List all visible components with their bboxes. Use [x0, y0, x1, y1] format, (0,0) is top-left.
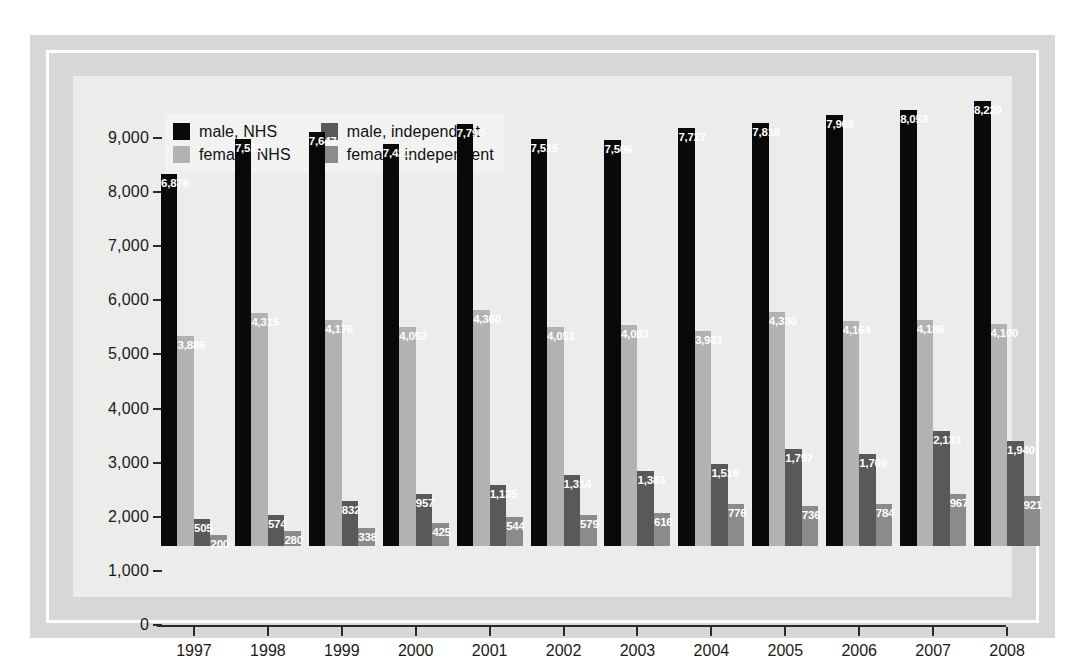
bar-female-independent-1998: 280 — [284, 531, 301, 546]
bar-female-NHS-2005: 4,330 — [769, 312, 786, 546]
x-axis-label-1997: 1997 — [176, 642, 212, 660]
bar-male-independent-2008: 1,940 — [1007, 441, 1024, 546]
bar-male-NHS-2002: 7,515 — [531, 139, 548, 546]
y-axis-tick-label: 1,000 — [73, 562, 149, 580]
bar-male-independent-2006: 1,709 — [859, 454, 876, 546]
bar-male-independent-2001: 1,135 — [490, 485, 507, 546]
legend-label: male, NHS — [199, 123, 277, 141]
x-axis-tick-mark — [267, 627, 269, 636]
bar-value-label: 4,330 — [769, 315, 786, 327]
bar-male-NHS-1998: 7,515 — [235, 139, 252, 546]
bar-female-NHS-2007: 4,186 — [917, 320, 934, 547]
bar-female-independent-1997: 200 — [210, 535, 227, 546]
legend-item-female-NHS: female, NHS — [173, 146, 291, 164]
x-axis-label-1998: 1998 — [250, 642, 286, 660]
bar-value-label: 4,186 — [917, 323, 934, 335]
bar-male-NHS-2005: 7,818 — [752, 123, 769, 546]
bar-value-label: 7,647 — [309, 135, 326, 147]
bar-value-label: 8,220 — [974, 104, 991, 116]
bar-value-label: 579 — [580, 518, 597, 530]
y-axis-tick-label: 8,000 — [73, 183, 149, 201]
bar-male-NHS-2006: 7,968 — [826, 115, 843, 546]
bar-value-label: 7,506 — [604, 143, 621, 155]
bar-value-label: 7,515 — [235, 142, 252, 154]
x-axis-label-2002: 2002 — [546, 642, 582, 660]
bar-male-NHS-2000: 7,421 — [383, 144, 400, 546]
x-axis-label-2006: 2006 — [841, 642, 877, 660]
bar-female-NHS-1998: 4,315 — [251, 313, 268, 546]
bar-female-NHS-1997: 3,886 — [177, 336, 194, 546]
bar-group-2004: 7,7273,9811,516776 — [678, 39, 744, 546]
bar-value-label: 736 — [802, 509, 819, 521]
y-axis-tick-label: 2,000 — [73, 508, 149, 526]
bar-value-label: 7,515 — [531, 142, 548, 154]
bar-value-label: 280 — [284, 534, 301, 546]
x-axis-tick-mark — [858, 627, 860, 636]
bar-value-label: 967 — [950, 497, 967, 509]
y-axis-tick-label: 0 — [73, 616, 149, 634]
bar-value-label: 7,968 — [826, 118, 843, 130]
bar-value-label: 3,886 — [177, 339, 194, 351]
bar-female-independent-2008: 921 — [1024, 496, 1041, 546]
bar-female-NHS-2008: 4,100 — [991, 324, 1008, 546]
y-axis-tick-label: 5,000 — [73, 345, 149, 363]
bar-value-label: 4,176 — [325, 323, 342, 335]
bar-female-independent-1999: 338 — [358, 528, 375, 546]
bar-female-independent-2006: 784 — [876, 504, 893, 546]
x-axis-label-2003: 2003 — [620, 642, 656, 660]
bar-group-2007: 8,0534,1862,133967 — [900, 39, 966, 546]
bar-male-independent-2002: 1,314 — [564, 475, 581, 546]
bar-value-label: 3,981 — [695, 334, 712, 346]
x-axis-tick-mark — [710, 627, 712, 636]
x-axis-tick-mark — [193, 627, 195, 636]
x-axis-label-2007: 2007 — [915, 642, 951, 660]
bar-female-NHS-2000: 4,052 — [399, 327, 416, 546]
bar-value-label: 544 — [506, 520, 523, 532]
x-axis-line — [157, 625, 1006, 627]
bar-value-label: 1,940 — [1007, 444, 1024, 456]
bar-female-independent-2007: 967 — [950, 494, 967, 546]
bar-value-label: 338 — [358, 531, 375, 543]
bar-value-label: 1,709 — [859, 457, 876, 469]
legend-swatch-female-nhs — [173, 146, 190, 163]
bar-value-label: 6,878 — [161, 177, 178, 189]
y-axis-tick-label: 7,000 — [73, 237, 149, 255]
bar-male-NHS-2001: 7,790 — [457, 124, 474, 546]
x-axis-label-2004: 2004 — [694, 642, 730, 660]
bar-value-label: 957 — [416, 497, 433, 509]
bar-female-NHS-2004: 3,981 — [695, 331, 712, 546]
bar-value-label: 4,083 — [621, 328, 638, 340]
chart-plot-panel: 01,0002,0003,0004,0005,0006,0007,0008,00… — [73, 76, 1012, 597]
x-axis-label-2001: 2001 — [472, 642, 508, 660]
bar-value-label: 425 — [432, 526, 449, 538]
bar-value-label: 4,315 — [251, 316, 268, 328]
bar-male-NHS-1997: 6,878 — [161, 174, 178, 546]
x-axis-tick-mark — [341, 627, 343, 636]
bar-value-label: 7,790 — [457, 127, 474, 139]
bar-value-label: 4,052 — [399, 330, 416, 342]
bar-value-label: 7,727 — [678, 131, 695, 143]
bar-value-label: 1,797 — [785, 452, 802, 464]
bar-value-label: 2,133 — [933, 434, 950, 446]
figure-root: 01,0002,0003,0004,0005,0006,0007,0008,00… — [0, 0, 1085, 670]
bar-value-label: 1,135 — [490, 488, 507, 500]
y-axis-tick-label: 4,000 — [73, 400, 149, 418]
legend-item-male-NHS: male, NHS — [173, 123, 291, 141]
bar-value-label: 7,818 — [752, 126, 769, 138]
bar-value-label: 832 — [342, 504, 359, 516]
bar-value-label: 776 — [728, 507, 745, 519]
bar-value-label: 4,360 — [473, 313, 490, 325]
x-axis-tick-mark — [489, 627, 491, 636]
bar-female-independent-2000: 425 — [432, 523, 449, 546]
chart-outer-frame: 01,0002,0003,0004,0005,0006,0007,0008,00… — [30, 35, 1055, 638]
x-axis-label-1999: 1999 — [324, 642, 360, 660]
bar-value-label: 4,164 — [843, 324, 860, 336]
bar-male-independent-1997: 505 — [194, 519, 211, 546]
x-axis-tick-mark — [784, 627, 786, 636]
bar-value-label: 1,314 — [564, 478, 581, 490]
bar-male-NHS-1999: 7,647 — [309, 132, 326, 546]
bar-female-NHS-1999: 4,176 — [325, 320, 342, 546]
bar-female-independent-2003: 616 — [654, 513, 671, 546]
bar-group-2003: 7,5064,0831,383616 — [604, 39, 670, 546]
bar-value-label: 8,053 — [900, 113, 917, 125]
